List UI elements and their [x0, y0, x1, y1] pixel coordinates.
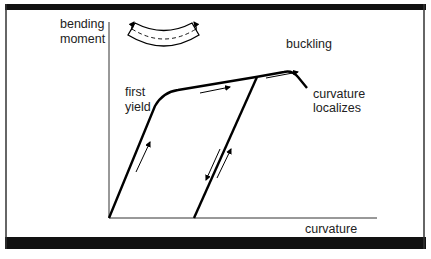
annotation-curvature: curvature	[313, 87, 365, 101]
annotation-first: first	[125, 85, 145, 99]
annotation-localizes: localizes	[313, 101, 361, 115]
diagram-frame: bending moment first yield buckling curv…	[0, 0, 431, 259]
top-bar	[5, 4, 426, 10]
annotation-yield: yield	[125, 100, 151, 114]
y-axis-label-moment: moment	[60, 32, 105, 46]
y-axis-label-bending: bending	[60, 17, 105, 31]
bottom-bar	[5, 237, 426, 249]
annotation-buckling: buckling	[286, 37, 332, 51]
x-axis-label: curvature	[305, 222, 357, 236]
